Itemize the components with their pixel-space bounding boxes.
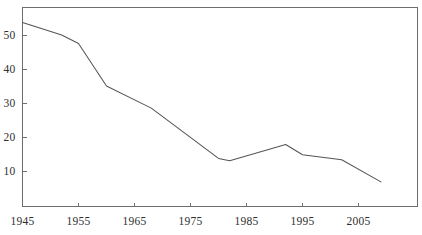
x-axis-tick-labels: 1945195519651975198519952005 [11, 215, 371, 227]
y-tick-label: 10 [4, 165, 16, 177]
chart-container: 1020304050 1945195519651975198519952005 [0, 0, 422, 235]
line-chart: 1020304050 1945195519651975198519952005 [0, 0, 422, 235]
data-series-group [23, 22, 381, 181]
axes-box [23, 8, 418, 207]
x-tick-label: 1955 [67, 215, 91, 227]
series-line [23, 22, 381, 181]
x-axis-ticks [23, 203, 359, 207]
y-axis-tick-labels: 1020304050 [4, 29, 16, 177]
x-tick-label: 1975 [179, 215, 203, 227]
y-tick-label: 40 [4, 63, 16, 75]
y-tick-label: 30 [4, 97, 16, 109]
x-tick-label: 1945 [11, 215, 35, 227]
x-tick-label: 1985 [235, 215, 259, 227]
x-tick-label: 1995 [291, 215, 315, 227]
x-tick-label: 2005 [347, 215, 371, 227]
y-tick-label: 20 [4, 131, 16, 143]
x-tick-label: 1965 [123, 215, 147, 227]
y-tick-label: 50 [4, 29, 16, 41]
y-axis-ticks [23, 35, 27, 171]
plot-frame [23, 8, 418, 207]
